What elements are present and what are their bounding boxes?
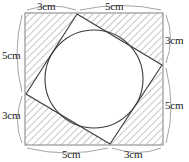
label-top-right: 5cm xyxy=(105,1,123,12)
label-bottom-left: 5cm xyxy=(62,149,80,160)
label-left-bottom: 3cm xyxy=(2,110,20,121)
geometry-figure: 3cm5cm3cm5cm5cm3cm5cm3cm xyxy=(0,0,189,162)
label-left-top: 5cm xyxy=(2,50,20,61)
label-right-bottom: 5cm xyxy=(165,100,183,111)
hatched-corner-regions xyxy=(25,13,163,145)
label-right-top: 3cm xyxy=(165,35,183,46)
figure-canvas xyxy=(0,0,189,162)
label-top-left: 3cm xyxy=(37,1,55,12)
label-bottom-right: 3cm xyxy=(124,149,142,160)
